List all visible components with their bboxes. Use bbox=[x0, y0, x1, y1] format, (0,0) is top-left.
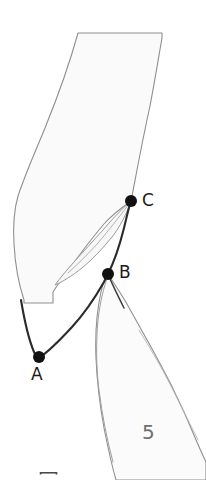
landmark-label-b: B bbox=[119, 264, 131, 281]
figure-root: A B C 5 图 6 6 bbox=[0, 0, 206, 480]
figure-caption-text: 图 6 6 bbox=[38, 472, 114, 476]
region-number-5: 5 bbox=[142, 422, 155, 442]
landmark-point-c bbox=[125, 195, 137, 207]
caption-strip: 图 6 6 bbox=[0, 472, 206, 480]
landmark-point-a bbox=[33, 351, 45, 363]
landmark-label-c: C bbox=[142, 192, 154, 209]
anatomical-diagram-svg bbox=[0, 0, 206, 480]
lower-right-region bbox=[96, 274, 206, 480]
landmark-label-a: A bbox=[31, 366, 43, 383]
landmark-point-b bbox=[102, 268, 114, 280]
